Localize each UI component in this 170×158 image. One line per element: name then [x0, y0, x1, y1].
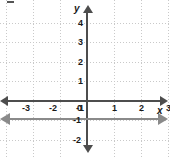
plotted-line-arrow-left: [0, 113, 10, 125]
y-tick-label-2: 2: [78, 58, 83, 67]
x-tick-label-neg3: -3: [22, 104, 30, 113]
x-tick-label-3: 3: [166, 104, 170, 113]
y-axis-arrow-up: [83, 5, 93, 13]
gridline-horizontal-y-1: [0, 81, 170, 82]
print-speck: [7, 1, 14, 3]
y-axis: [86, 12, 88, 146]
x-axis: [6, 100, 162, 102]
origin-label: 0: [77, 104, 82, 113]
coordinate-graph: -3 -2 -1 0 1 2 3 4 3 2 1 -1 -2 y x: [0, 0, 170, 158]
gridline-horizontal-y-2: [0, 62, 170, 63]
y-tick-label-4: 4: [78, 19, 83, 28]
x-axis-arrow-left: [0, 96, 8, 106]
gridline-horizontal-y-4: [0, 23, 170, 24]
gridline-horizontal-y-neg2: [0, 140, 170, 141]
x-tick-label-neg2: -2: [49, 104, 57, 113]
x-tick-label-1: 1: [112, 104, 117, 113]
y-tick-label-neg1: -1: [73, 116, 81, 125]
x-tick-label-2: 2: [139, 104, 144, 113]
gridline-horizontal-y-3: [0, 42, 170, 43]
y-axis-label: y: [74, 4, 80, 14]
y-tick-label-neg2: -2: [73, 136, 81, 145]
y-tick-label-3: 3: [78, 38, 83, 47]
x-axis-label: x: [157, 106, 163, 116]
gridline-horizontal-y-neg1: [0, 120, 170, 121]
y-tick-label-1: 1: [78, 77, 83, 86]
y-axis-arrow-down: [83, 145, 93, 153]
plotted-line-y-equals-neg1: [10, 118, 160, 120]
